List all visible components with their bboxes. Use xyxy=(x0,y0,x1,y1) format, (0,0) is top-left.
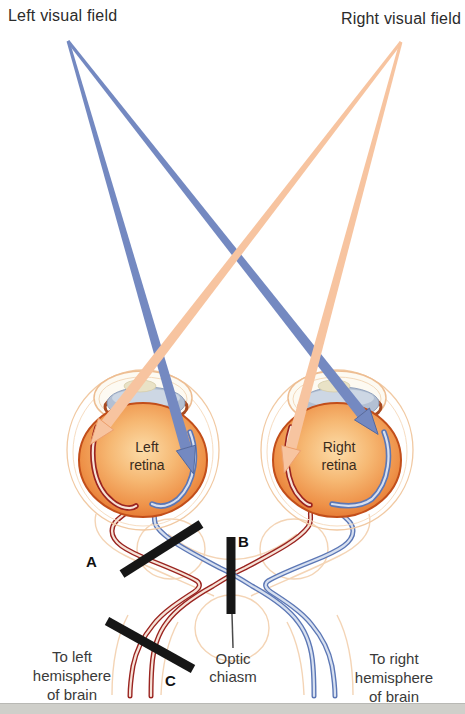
right-eye-temporal-fiber xyxy=(266,504,353,696)
right-retina-label: Right retina xyxy=(321,438,356,474)
page-bottom-edge xyxy=(0,703,465,714)
right-visual-field-label: Right visual field xyxy=(341,9,461,29)
lesion-bars xyxy=(107,524,231,669)
lesion-label-a: A xyxy=(86,553,97,571)
lesion-label-b: B xyxy=(238,533,249,551)
optic-chiasm-label: Optic chiasm xyxy=(209,650,257,687)
left-field-ray-to-right-eye xyxy=(67,40,367,417)
sheath-right-tract-inner xyxy=(287,622,304,695)
chiasm-leader-line xyxy=(232,614,233,648)
right-hemisphere-label: To right hemisphere of brain xyxy=(355,650,433,706)
left-hemisphere-label: To left hemisphere of brain xyxy=(33,648,111,704)
lesion-label-c: C xyxy=(165,672,176,690)
diagram-canvas xyxy=(0,0,465,714)
sheath-right-tract-outer xyxy=(337,615,353,695)
left-visual-field-label: Left visual field xyxy=(8,6,117,26)
visual-field-rays xyxy=(67,40,403,474)
left-retina-label: Left retina xyxy=(129,438,164,474)
right-field-ray-to-left-eye xyxy=(102,41,403,427)
visual-pathway-diagram: Left visual field Right visual field Lef… xyxy=(0,0,465,714)
